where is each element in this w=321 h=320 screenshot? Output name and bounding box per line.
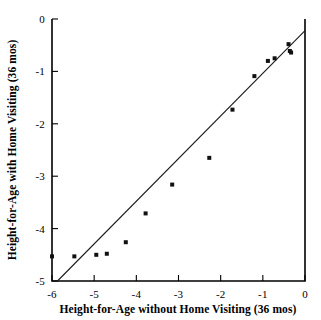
x-tick-label: -1 — [258, 288, 268, 300]
plot-frame — [52, 19, 305, 281]
x-tick-label: -5 — [89, 288, 99, 300]
y-tick-label: -5 — [35, 275, 45, 287]
x-axis-ticks — [52, 275, 305, 281]
data-point — [124, 240, 128, 244]
x-axis-title: Height-for-Age without Home Visiting (36… — [60, 303, 297, 316]
data-point — [105, 252, 109, 256]
data-point — [170, 183, 174, 187]
chart-canvas: -5-4-3-2-10 -6-5-4-3-2-10 Height-for-Age… — [0, 0, 321, 320]
data-point — [273, 56, 277, 60]
data-point — [50, 254, 54, 258]
y-tick-label: -2 — [35, 118, 45, 130]
x-tick-label: -6 — [47, 288, 57, 300]
data-point — [287, 42, 291, 46]
x-tick-label: -3 — [174, 288, 184, 300]
y-tick-label: -3 — [35, 170, 45, 182]
y-axis-ticks — [52, 19, 58, 281]
identity-reference-line — [57, 31, 305, 281]
x-axis-tick-labels: -6-5-4-3-2-10 — [47, 288, 308, 300]
y-tick-label: -1 — [35, 65, 45, 77]
x-tick-label: -4 — [132, 288, 142, 300]
y-axis-title: Height-for-Age with Home Visiting (36 mo… — [6, 40, 19, 261]
y-tick-label: 0 — [39, 13, 45, 25]
y-tick-label: -4 — [35, 223, 45, 235]
data-point — [94, 253, 98, 257]
x-tick-label: 0 — [302, 288, 308, 300]
data-point — [72, 254, 76, 258]
y-axis-tick-labels: -5-4-3-2-10 — [35, 13, 45, 287]
scatter-plot-figure: -5-4-3-2-10 -6-5-4-3-2-10 Height-for-Age… — [0, 0, 321, 320]
reference-line-segment — [57, 31, 305, 281]
data-point — [289, 51, 293, 55]
data-point — [252, 74, 256, 78]
data-point-group — [50, 42, 293, 258]
data-point — [207, 156, 211, 160]
data-point — [266, 59, 270, 63]
x-tick-label: -2 — [216, 288, 226, 300]
axis-frame — [52, 19, 305, 281]
data-point — [144, 211, 148, 215]
data-point — [230, 108, 234, 112]
